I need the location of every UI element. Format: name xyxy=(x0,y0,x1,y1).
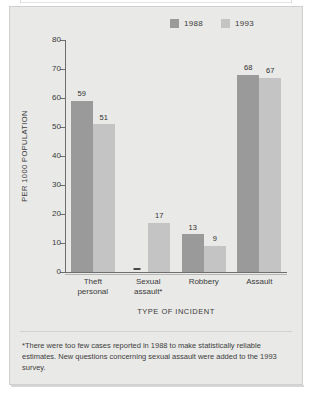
plot-area: 01020304050607080 5951171396867 xyxy=(65,40,287,272)
bar[interactable] xyxy=(71,101,93,272)
bar-group: 139 xyxy=(176,40,232,272)
chart-figure: 1988 1993 PER 1000 POPULATION 0102030405… xyxy=(0,0,313,394)
x-category-label-line1: Assault xyxy=(232,277,288,287)
x-category-label: Robbery xyxy=(176,277,232,297)
chart-legend: 1988 1993 xyxy=(170,19,254,28)
legend-entry-1988: 1988 xyxy=(170,19,203,28)
bar-value-label: 17 xyxy=(155,212,163,220)
x-axis-baseline-shadow xyxy=(65,274,287,275)
legend-swatch-1988 xyxy=(170,19,179,28)
x-axis-line xyxy=(65,272,287,273)
y-tick-label: 10 xyxy=(52,239,61,247)
y-tick-label: 70 xyxy=(52,65,61,73)
bar-value-label: 59 xyxy=(78,90,86,98)
bar[interactable] xyxy=(93,124,115,272)
y-axis-title: PER 1000 POPULATION xyxy=(20,40,30,272)
y-tick-label: 0 xyxy=(57,268,61,276)
x-category-label-line2: personal xyxy=(65,287,121,297)
bar-slot[interactable]: 17 xyxy=(148,40,170,272)
bar[interactable] xyxy=(259,78,281,272)
bar-value-label: 9 xyxy=(213,235,217,243)
legend-entry-1993: 1993 xyxy=(221,19,254,28)
legend-label-1993: 1993 xyxy=(235,20,254,28)
x-category-label: Sexualassault* xyxy=(121,277,177,297)
bar-group: 5951 xyxy=(65,40,121,272)
bar-slot[interactable]: 13 xyxy=(182,40,204,272)
y-tick-label: 30 xyxy=(52,181,61,189)
x-axis-title: TYPE OF INCIDENT xyxy=(65,307,287,316)
bar-slot[interactable] xyxy=(126,40,148,272)
y-tick-label: 50 xyxy=(52,123,61,131)
bar-slot[interactable]: 51 xyxy=(93,40,115,272)
x-category-label-line1: Theft xyxy=(65,277,121,287)
bar-group: 17 xyxy=(121,40,177,272)
bar-groups: 5951171396867 xyxy=(65,40,287,272)
legend-label-1988: 1988 xyxy=(184,20,203,28)
footnote-divider xyxy=(20,331,292,332)
bar-slot[interactable]: 9 xyxy=(204,40,226,272)
bar-group: 6867 xyxy=(232,40,288,272)
y-tick-label: 60 xyxy=(52,94,61,102)
x-category-label-line1: Sexual xyxy=(121,277,177,287)
y-tick: 0 xyxy=(65,272,66,273)
bar-slot[interactable]: 67 xyxy=(259,40,281,272)
x-category-label-line1: Robbery xyxy=(176,277,232,287)
bar-value-label: 51 xyxy=(100,114,108,122)
y-tick-label: 20 xyxy=(52,210,61,218)
bar-slot[interactable]: 59 xyxy=(71,40,93,272)
bar-value-label: 67 xyxy=(266,67,274,75)
y-tick-label: 80 xyxy=(52,36,61,44)
legend-swatch-1993 xyxy=(221,19,230,28)
x-category-label-line2: assault* xyxy=(121,287,177,297)
x-category-label: Assault xyxy=(232,277,288,297)
bar-slot[interactable]: 68 xyxy=(237,40,259,272)
no-data-dash-marker xyxy=(134,268,141,270)
bar[interactable] xyxy=(148,223,170,272)
x-axis-category-labels: TheftpersonalSexualassault*RobberyAssaul… xyxy=(65,277,287,297)
bar-value-label: 13 xyxy=(189,224,197,232)
bar-value-label: 68 xyxy=(244,64,252,72)
bar[interactable] xyxy=(204,246,226,272)
y-tick-label: 40 xyxy=(52,152,61,160)
bar[interactable] xyxy=(182,234,204,272)
clipped-top-rule xyxy=(20,0,292,3)
footnote-text: *There were too few cases reported in 19… xyxy=(22,340,290,373)
bar[interactable] xyxy=(237,75,259,272)
x-category-label: Theftpersonal xyxy=(65,277,121,297)
